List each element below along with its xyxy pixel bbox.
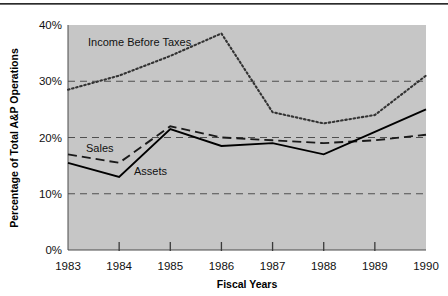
x-tick-label-1988: 1988 xyxy=(311,260,337,272)
chart-container: 0%10%20%30%40% 1983198419851986198719881… xyxy=(0,0,448,296)
line-chart: 0%10%20%30%40% 1983198419851986198719881… xyxy=(0,0,448,296)
x-tick-label-1983: 1983 xyxy=(55,260,81,272)
x-axis-title: Fiscal Years xyxy=(217,278,278,290)
x-tick-label-group: 19831984198519861987198819891990 xyxy=(55,260,439,272)
series-label-income-before-taxes: Income Before Taxes xyxy=(88,36,192,48)
series-label-assets: Assets xyxy=(134,165,168,177)
y-tick-label-30: 30% xyxy=(39,75,62,87)
y-axis-title: Percentage of Total A&P Operations xyxy=(8,48,20,228)
x-tick-label-1984: 1984 xyxy=(106,260,132,272)
y-tick-label-40: 40% xyxy=(39,19,62,31)
x-tick-label-1990: 1990 xyxy=(413,260,439,272)
x-tick-label-1987: 1987 xyxy=(260,260,286,272)
y-tick-label-0: 0% xyxy=(45,244,62,256)
x-tick-label-1986: 1986 xyxy=(209,260,235,272)
y-tick-label-20: 20% xyxy=(39,132,62,144)
series-label-sales: Sales xyxy=(86,142,114,154)
x-tick-label-1989: 1989 xyxy=(362,260,388,272)
y-tick-label-10: 10% xyxy=(39,188,62,200)
x-tick-label-1985: 1985 xyxy=(157,260,183,272)
y-tick-label-group: 0%10%20%30%40% xyxy=(39,19,62,256)
figure-canvas: 0%10%20%30%40% 1983198419851986198719881… xyxy=(0,0,448,296)
